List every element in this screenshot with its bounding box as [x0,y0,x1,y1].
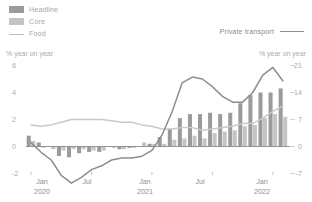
x-label-1: Jul [67,177,107,187]
x-label-4: Jan 2022 [242,177,282,196]
x-label-3: Jul [180,177,220,187]
chart-container: Headline Core Food Private transport % y… [0,0,312,202]
x-label-0: Jan 2020 [22,177,62,196]
x-label-2-month: Jan [139,177,151,186]
x-label-2: Jan 2021 [125,177,165,196]
x-label-4-year: 2022 [254,187,270,196]
x-label-4-month: Jan [256,177,268,186]
x-label-0-year: 2020 [34,187,50,196]
x-label-1-month: Jul [82,177,91,186]
x-label-0-month: Jan [36,177,48,186]
x-label-3-month: Jul [195,177,204,186]
plot-area [0,0,312,202]
x-label-2-year: 2021 [137,187,153,196]
